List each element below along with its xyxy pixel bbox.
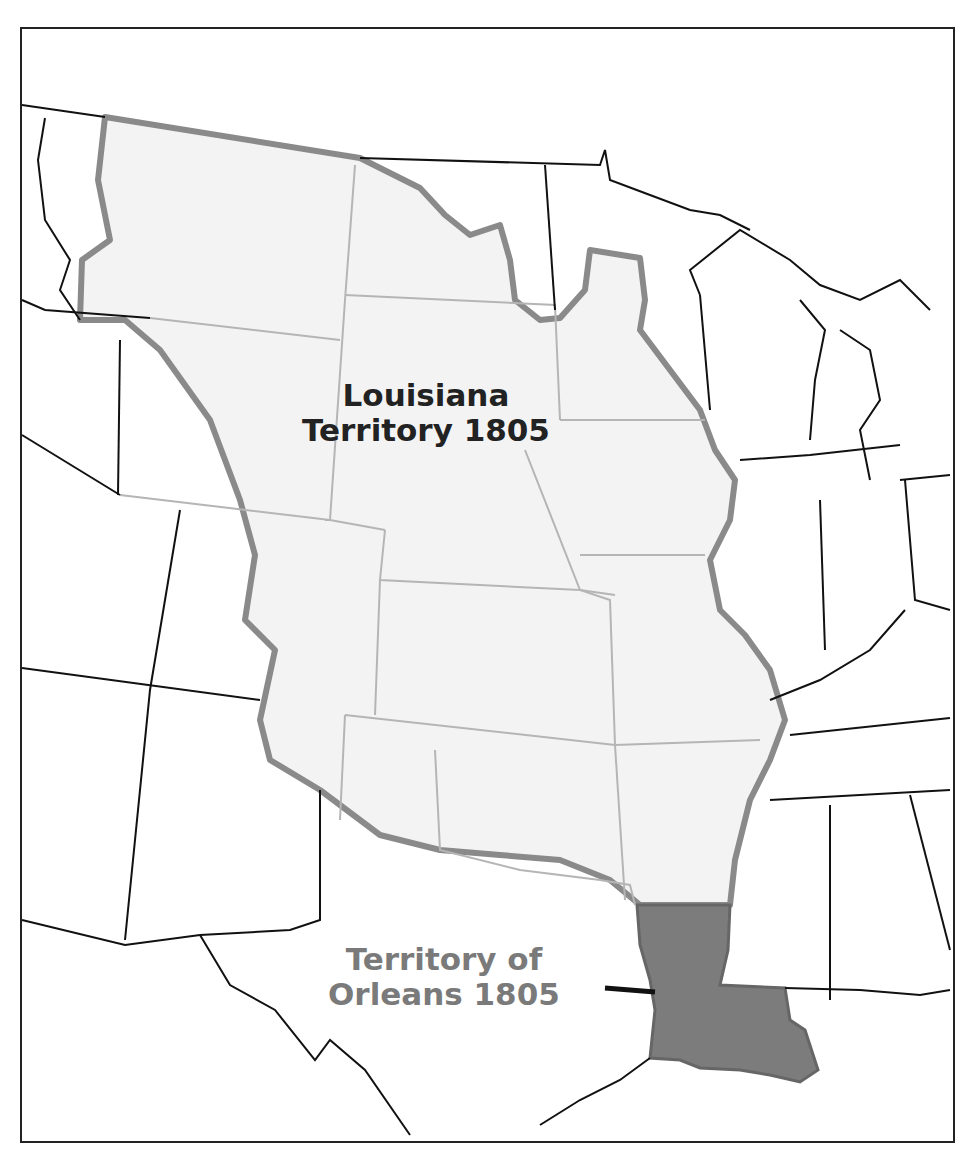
- louisiana-label-line1: Louisiana: [302, 378, 550, 413]
- orleans-label-line1: Territory of: [328, 942, 560, 977]
- territory-of-orleans-region: [637, 905, 818, 1082]
- orleans-label-line2: Orleans 1805: [328, 977, 560, 1012]
- louisiana-territory-region: [80, 117, 785, 905]
- louisiana-territory-label: Louisiana Territory 1805: [302, 378, 550, 447]
- territory-of-orleans-label: Territory of Orleans 1805: [328, 942, 560, 1011]
- louisiana-label-line2: Territory 1805: [302, 413, 550, 448]
- orleans-pointer-line: [605, 988, 655, 992]
